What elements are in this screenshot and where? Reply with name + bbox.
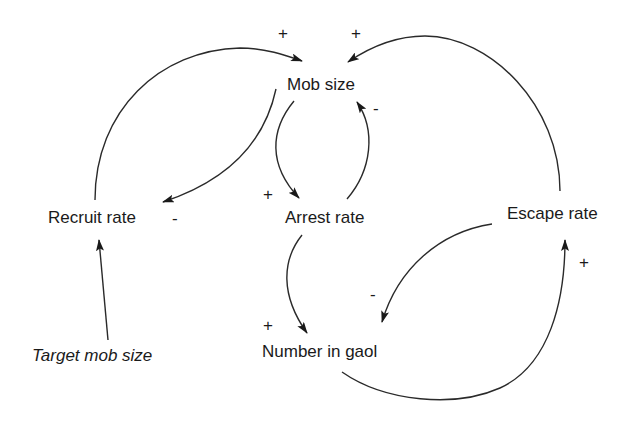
link-arrest-to-mob xyxy=(347,102,369,199)
node-mob-size: Mob size xyxy=(287,75,355,94)
sign-arrest-to-mob: - xyxy=(373,99,379,118)
link-escape-to-number xyxy=(382,224,492,322)
link-number-to-escape xyxy=(342,240,565,400)
node-number-in-gaol: Number in gaol xyxy=(262,342,377,361)
sign-escape-to-number: - xyxy=(370,285,376,304)
causal-loop-diagram: Mob size Recruit rate Arrest rate Escape… xyxy=(0,0,639,421)
link-target-to-recruit xyxy=(99,240,108,340)
sign-number-to-escape: + xyxy=(579,253,589,272)
link-arrest-to-number xyxy=(287,235,307,333)
link-mob-to-arrest xyxy=(276,101,299,198)
node-recruit-rate: Recruit rate xyxy=(48,208,136,227)
sign-mob-to-arrest: + xyxy=(263,185,273,204)
node-arrest-rate: Arrest rate xyxy=(285,208,364,227)
sign-arrest-to-number: + xyxy=(263,316,273,335)
node-target-mob-size: Target mob size xyxy=(32,346,152,365)
node-escape-rate: Escape rate xyxy=(507,204,598,223)
sign-recruit-to-mob: + xyxy=(278,24,288,43)
sign-escape-to-mob: + xyxy=(351,24,361,43)
link-mob-to-recruit xyxy=(163,89,276,202)
link-recruit-to-mob xyxy=(95,48,302,200)
sign-mob-to-recruit: - xyxy=(172,209,178,228)
link-escape-to-mob xyxy=(348,36,560,191)
